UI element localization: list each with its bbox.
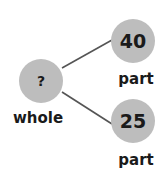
part-1-label: part xyxy=(118,70,153,88)
part-2-value: 25 xyxy=(120,110,146,132)
part-whole-diagram: ? whole 40 part 25 part xyxy=(0,0,167,176)
whole-value: ? xyxy=(37,73,45,89)
connector-line-bottom xyxy=(62,92,112,124)
part-1-value: 40 xyxy=(120,30,146,52)
connector-line-top xyxy=(62,40,112,68)
part-2-label: part xyxy=(118,151,153,169)
whole-label: whole xyxy=(13,109,63,127)
